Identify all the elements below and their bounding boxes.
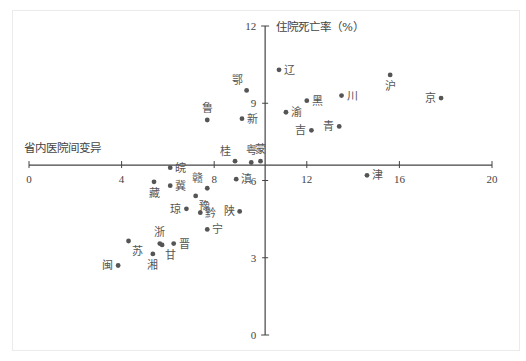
point-label: 川 — [347, 90, 358, 103]
point-label: 吉 — [295, 124, 306, 137]
data-point — [205, 227, 210, 232]
data-point — [249, 160, 254, 165]
data-point — [339, 93, 344, 98]
point-label: 赣 — [192, 171, 203, 185]
data-point — [193, 194, 198, 199]
point-label: 浙 — [154, 226, 165, 239]
x-tick-label: 8 — [211, 173, 217, 185]
data-point — [205, 118, 210, 123]
scatter-chart: 048121620036912 辽沪京鄂黑川鲁新渝青吉桂粤蒙皖滇津藏冀赣豫琼黔陕… — [0, 0, 526, 361]
point-label: 沪 — [385, 79, 396, 93]
point-label: 辽 — [284, 64, 295, 77]
point-label: 黔 — [205, 206, 216, 220]
data-point — [388, 73, 393, 78]
data-point — [160, 242, 165, 247]
data-point — [205, 186, 210, 191]
y-axis-title: 住院死亡率（%） — [276, 20, 364, 34]
point-label: 蒙 — [255, 143, 266, 156]
point-label: 苏 — [132, 245, 143, 258]
point-label: 陕 — [224, 204, 235, 218]
x-tick-label: 20 — [487, 173, 499, 185]
point-label: 皖 — [175, 161, 186, 175]
point-label: 渝 — [291, 105, 302, 119]
y-tick-label: 9 — [251, 97, 257, 109]
y-tick-label: 3 — [251, 252, 257, 264]
data-point — [240, 116, 245, 121]
data-point — [309, 128, 314, 133]
data-points: 辽沪京鄂黑川鲁新渝青吉桂粤蒙皖滇津藏冀赣豫琼黔陕宁浙甘晋苏湘闽 — [102, 64, 443, 273]
data-point — [237, 209, 242, 214]
data-point — [277, 67, 282, 72]
data-point — [150, 251, 155, 256]
point-label: 黑 — [312, 95, 323, 108]
data-point — [152, 179, 157, 184]
data-point — [116, 263, 121, 268]
point-label: 甘 — [165, 249, 176, 262]
data-point — [168, 183, 173, 188]
x-tick-label: 12 — [301, 173, 312, 185]
data-point — [365, 173, 370, 178]
axes: 048121620036912 — [26, 20, 498, 341]
data-point — [233, 159, 238, 164]
data-point — [304, 98, 309, 103]
point-label: 青 — [323, 120, 334, 133]
point-label: 滇 — [241, 172, 252, 186]
x-tick-label: 0 — [26, 173, 32, 185]
data-point — [171, 241, 176, 246]
data-point — [284, 110, 289, 115]
data-point — [184, 206, 189, 211]
point-label: 宁 — [212, 222, 223, 236]
data-point — [168, 165, 173, 170]
data-point — [439, 96, 444, 101]
data-point — [198, 210, 203, 215]
x-tick-label: 16 — [394, 173, 406, 185]
point-label: 藏 — [149, 187, 160, 200]
point-label: 桂 — [220, 144, 231, 158]
y-tick-label: 12 — [245, 20, 256, 32]
point-label: 湘 — [147, 258, 158, 272]
point-label: 晋 — [179, 238, 190, 251]
data-point — [258, 159, 263, 164]
data-point — [337, 124, 342, 129]
point-label: 冀 — [175, 179, 186, 193]
point-label: 鲁 — [202, 101, 213, 115]
point-label: 琼 — [170, 202, 181, 216]
point-label: 津 — [372, 169, 383, 182]
data-point — [244, 88, 249, 93]
point-label: 鄂 — [232, 74, 243, 87]
data-point — [126, 239, 131, 244]
y-tick-label: 0 — [251, 329, 257, 341]
point-label: 闽 — [102, 259, 113, 272]
x-axis-title: 省内医院间变异 — [24, 141, 101, 155]
x-tick-label: 4 — [119, 173, 125, 185]
data-point — [234, 177, 239, 182]
point-label: 京 — [425, 91, 436, 105]
point-label: 新 — [247, 112, 258, 126]
